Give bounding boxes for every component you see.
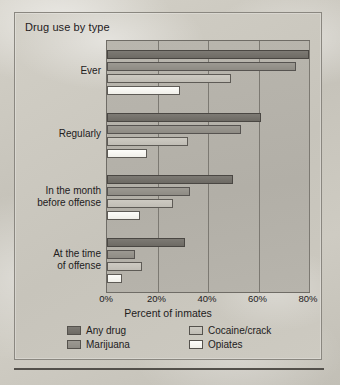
legend-label: Marijuana [86, 339, 130, 350]
bar-mar [107, 125, 241, 134]
bar-coc [107, 74, 231, 83]
bar-any [107, 238, 185, 247]
x-tick-label: 20% [147, 293, 166, 304]
category-label-line: Regularly [15, 128, 101, 140]
bar-opi [107, 211, 140, 220]
bar-any [107, 175, 233, 184]
bar-group [107, 41, 309, 104]
x-tick-label: 60% [248, 293, 267, 304]
bar-group [107, 167, 309, 230]
bar-any [107, 50, 309, 59]
bar-group [107, 104, 309, 167]
bar-mar [107, 250, 135, 259]
x-tick-label: 80% [298, 293, 317, 304]
bar-coc [107, 137, 188, 146]
legend-label: Cocaine/crack [208, 325, 271, 336]
legend-item-coc: Cocaine/crack [189, 325, 297, 336]
gridline [309, 41, 310, 292]
x-axis-label: Percent of inmates [15, 307, 321, 319]
category-axis-labels: EverRegularlyIn the monthbefore offenseA… [15, 40, 101, 291]
bar-coc [107, 262, 142, 271]
legend-swatch-coc [189, 326, 203, 335]
bar-opi [107, 274, 122, 283]
footer-rule [14, 368, 324, 370]
chart-frame: Drug use by type EverRegularlyIn the mon… [14, 12, 322, 360]
bar-opi [107, 86, 180, 95]
category-label: In the monthbefore offense [15, 185, 101, 209]
x-tick-label: 0% [99, 293, 113, 304]
category-label-line: of offense [15, 260, 101, 272]
bar-groups [107, 41, 309, 292]
legend-swatch-mar [67, 340, 81, 349]
chart-title: Drug use by type [25, 21, 110, 33]
x-axis-ticks: 0%20%40%60%80% [106, 293, 310, 307]
category-label: Regularly [15, 128, 101, 140]
category-label: Ever [15, 65, 101, 77]
legend-swatch-any [67, 326, 81, 335]
bar-mar [107, 62, 296, 71]
category-label-line: In the month [15, 185, 101, 197]
category-label: At the timeof offense [15, 248, 101, 272]
category-label-line: At the time [15, 248, 101, 260]
bar-coc [107, 199, 173, 208]
category-label-line: before offense [15, 197, 101, 209]
legend-label: Opiates [208, 339, 242, 350]
legend-label: Any drug [86, 325, 126, 336]
bar-opi [107, 149, 147, 158]
plot-area [106, 40, 310, 293]
chart-legend: Any drugCocaine/crackMarijuanaOpiates [67, 325, 297, 350]
category-label-line: Ever [15, 65, 101, 77]
legend-item-mar: Marijuana [67, 339, 175, 350]
bar-mar [107, 187, 190, 196]
legend-item-opi: Opiates [189, 339, 297, 350]
legend-item-any: Any drug [67, 325, 175, 336]
legend-swatch-opi [189, 340, 203, 349]
bar-group [107, 229, 309, 292]
bar-any [107, 113, 261, 122]
x-tick-label: 40% [197, 293, 216, 304]
